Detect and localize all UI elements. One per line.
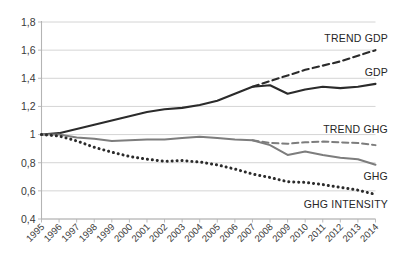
y-tick-label: 0,8: [21, 157, 36, 169]
line-chart: 0,40,60,811,21,41,61,8 19951996199719981…: [0, 0, 396, 263]
y-tick-label: 1,2: [21, 100, 36, 112]
y-tick-label: 0,6: [21, 185, 36, 197]
y-tick-label: 1,6: [21, 44, 36, 56]
series-label-trend-gdp: TREND GDP: [324, 32, 388, 44]
series-label-ghg: GHG: [363, 170, 388, 182]
chart-canvas: 0,40,60,811,21,41,61,8 19951996199719981…: [0, 0, 396, 263]
y-tick-label: 1,8: [21, 16, 36, 28]
series-label-gdp: GDP: [365, 66, 388, 78]
series-label-ghg-intensity: GHG INTENSITY: [304, 198, 388, 210]
y-tick-label: 1: [30, 128, 36, 140]
y-tick-label: 1,4: [21, 72, 36, 84]
series-label-trend-ghg: TREND GHG: [323, 123, 388, 135]
y-tick-label: 0,4: [21, 213, 36, 225]
